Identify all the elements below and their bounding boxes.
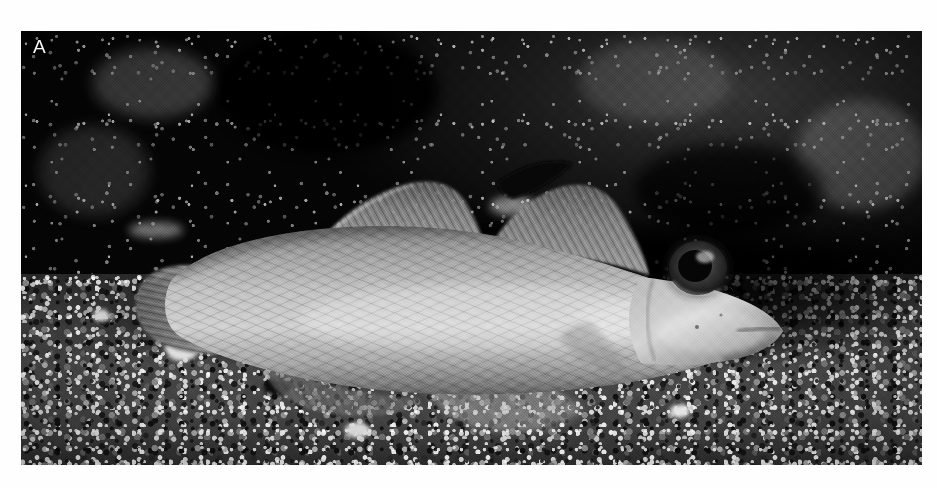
fish-specimen [21,31,922,465]
figure-page: A [0,0,937,488]
pore-speck [719,313,722,316]
panel-label: A [33,37,46,56]
figure-photograph-plate: A [21,31,922,465]
eye-highlight [696,251,714,263]
eye [664,237,732,299]
pore-speck [695,325,699,329]
